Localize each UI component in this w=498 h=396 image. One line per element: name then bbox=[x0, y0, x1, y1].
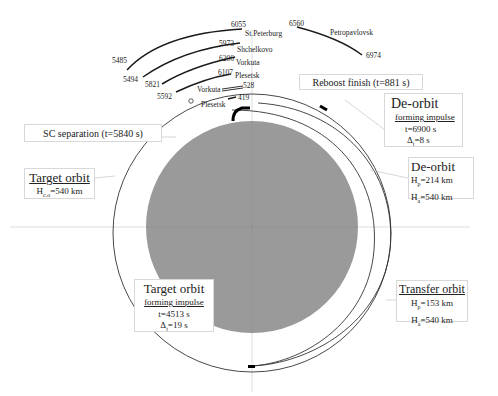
track-label: 6974 bbox=[366, 51, 381, 60]
target-orbit-callout: Target orbit Hc.o=540 km bbox=[24, 168, 95, 199]
station-label: Plesetsk bbox=[235, 71, 260, 80]
transfer-orbit-callout: Transfer orbit Hp=153 km Ha=540 km bbox=[396, 280, 468, 322]
deorbit-apogee: Ha=540 km bbox=[411, 191, 473, 208]
target-orbit-title: Target orbit bbox=[25, 170, 94, 185]
target-impulse-subtitle: forming impulse bbox=[135, 296, 213, 309]
deorbit-title: De-orbit bbox=[411, 159, 473, 174]
station-label: St.Peterburg bbox=[245, 29, 282, 38]
transfer-apogee: Ha=540 km bbox=[397, 314, 467, 331]
deorbit-impulse-marker bbox=[320, 106, 327, 110]
reboost-finish-callout: Reboost finish (t=881 s) bbox=[299, 74, 423, 90]
sc-separation-marker bbox=[189, 99, 193, 103]
track-label: 6107 bbox=[218, 68, 233, 77]
sc-separation-label: SC separation (t=5840 s) bbox=[25, 125, 161, 142]
deorbit-impulse-time: t=6900 s bbox=[391, 124, 462, 135]
target-orbit-impulse-callout: Target orbit forming impulse t=4513 s Δt… bbox=[134, 279, 214, 332]
target-orbit-altitude: Hc.o=540 km bbox=[25, 185, 94, 202]
station-label: Petropavlovsk bbox=[330, 28, 373, 37]
station-label: Vorkuta bbox=[236, 58, 260, 67]
track-plesetsk-lower bbox=[228, 97, 236, 99]
track-st-peterburg bbox=[127, 29, 242, 70]
track-label: 419 bbox=[238, 93, 249, 102]
deorbit-impulse-callout: De-orbit forming impulse t=6900 s Δt=8 s bbox=[384, 93, 463, 147]
track-label: 6206 bbox=[219, 54, 234, 63]
track-vorkuta-lower bbox=[222, 86, 243, 91]
track-label: 5592 bbox=[157, 92, 172, 101]
reboost-finish-label: Reboost finish (t=881 s) bbox=[300, 75, 422, 90]
target-impulse-time: t=4513 s bbox=[135, 309, 213, 320]
track-label: 5494 bbox=[123, 75, 138, 84]
transfer-perigee: Hp=153 km bbox=[397, 297, 467, 314]
orbit-diagram: 6055 St.Peterburg 5485 5973 Shchelkovo 5… bbox=[0, 0, 498, 396]
station-label: Plesetsk bbox=[201, 100, 226, 109]
track-label: 6055 bbox=[231, 20, 246, 29]
track-label: 5821 bbox=[145, 80, 160, 89]
station-label: Vorkuta bbox=[197, 85, 221, 94]
target-impulse-marker bbox=[248, 365, 255, 368]
track-label: 5973 bbox=[219, 39, 234, 48]
deorbit-impulse-title: De-orbit bbox=[391, 96, 462, 111]
track-label: 6560 bbox=[289, 19, 304, 28]
deorbit-perigee: Hp=214 km bbox=[411, 174, 473, 191]
deorbit-impulse-subtitle: forming impulse bbox=[391, 111, 462, 124]
deorbit-callout: De-orbit Hp=214 km Ha=540 km bbox=[408, 157, 474, 199]
transfer-orbit-title: Transfer orbit bbox=[397, 282, 467, 297]
target-impulse-title: Target orbit bbox=[135, 281, 213, 296]
track-label: 528 bbox=[243, 81, 254, 90]
deorbit-impulse-duration: Δt=8 s bbox=[391, 135, 462, 150]
sc-separation-callout: SC separation (t=5840 s) bbox=[24, 124, 162, 142]
target-impulse-duration: Δt=19 s bbox=[135, 320, 213, 335]
station-label: Shchelkovo bbox=[237, 45, 272, 54]
track-label: 5485 bbox=[112, 56, 127, 65]
